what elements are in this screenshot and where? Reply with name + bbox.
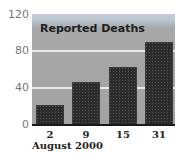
- bar-2: [36, 105, 64, 125]
- x-tick-31: 31: [145, 129, 173, 140]
- x-axis-line: [32, 124, 175, 126]
- bar-15: [109, 67, 137, 125]
- x-tick-2: 2: [36, 129, 64, 140]
- x-tick-15: 15: [109, 129, 137, 140]
- x-tick-9: 9: [72, 129, 100, 140]
- y-tick-80: 80: [0, 45, 29, 56]
- chart-title: Reported Deaths: [40, 22, 145, 35]
- y-tick-120: 120: [0, 9, 29, 20]
- bar-31: [145, 42, 173, 125]
- bar-9: [72, 82, 100, 125]
- y-tick-40: 40: [0, 82, 29, 93]
- x-axis-label: August 2000: [32, 140, 103, 151]
- y-tick-0: 0: [0, 119, 29, 130]
